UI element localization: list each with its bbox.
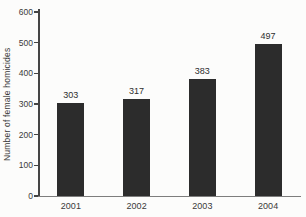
x-tick-label: 2001: [49, 201, 93, 211]
y-tick-mark: [34, 103, 38, 104]
x-axis-line: [38, 196, 301, 197]
y-tick-label: 0: [0, 191, 33, 201]
y-tick-mark: [34, 11, 38, 12]
bar-chart: Number of female homicides 0100200300400…: [0, 0, 306, 217]
y-tick-mark: [34, 195, 38, 196]
x-tick-label: 2002: [115, 201, 159, 211]
y-tick-label: 400: [0, 68, 33, 78]
bar-2001: [57, 103, 84, 196]
y-tick-label: 100: [0, 160, 33, 170]
y-tick-label: 500: [0, 38, 33, 48]
y-axis-line: [38, 9, 40, 197]
bar-value-label: 497: [248, 31, 288, 41]
bar-2003: [189, 79, 216, 196]
bar-value-label: 303: [51, 90, 91, 100]
bar-2002: [123, 99, 150, 196]
y-tick-mark: [34, 73, 38, 74]
y-tick-label: 200: [0, 130, 33, 140]
y-tick-mark: [34, 134, 38, 135]
y-tick-mark: [34, 42, 38, 43]
y-tick-label: 600: [0, 7, 33, 17]
y-tick-mark: [34, 165, 38, 166]
bar-2004: [255, 44, 282, 196]
y-tick-label: 300: [0, 99, 33, 109]
bar-value-label: 317: [117, 86, 157, 96]
x-tick-label: 2004: [246, 201, 290, 211]
x-tick-label: 2003: [180, 201, 224, 211]
bar-value-label: 383: [182, 66, 222, 76]
